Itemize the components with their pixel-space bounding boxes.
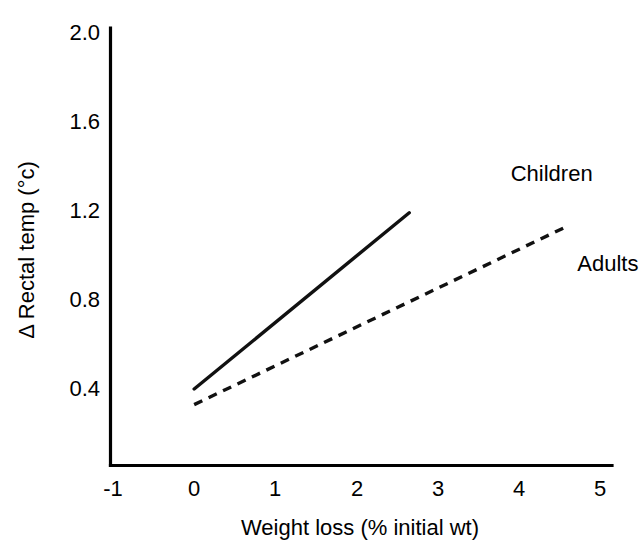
chart-figure: 2.0 1.6 1.2 0.8 0.4 -1 0 1 2 3 4 5 Weigh… (0, 0, 642, 552)
x-tick-label-5: 5 (594, 476, 606, 501)
series-line-children (194, 213, 409, 389)
x-tick-label-neg1: -1 (103, 476, 123, 501)
x-tick-label-1: 1 (269, 476, 281, 501)
x-tick-label-2: 2 (351, 476, 363, 501)
x-tick-label-3: 3 (432, 476, 444, 501)
y-axis-title: Δ Rectal temp (°c) (14, 161, 39, 339)
y-tick-label-2-0: 2.0 (69, 20, 100, 45)
series-label-adults: Adults (577, 251, 638, 276)
x-axis-title: Weight loss (% initial wt) (241, 515, 479, 540)
series-line-adults (194, 226, 567, 405)
x-tick-label-4: 4 (513, 476, 525, 501)
y-tick-label-0-8: 0.8 (69, 287, 100, 312)
y-tick-label-1-2: 1.2 (69, 198, 100, 223)
y-tick-label-0-4: 0.4 (69, 376, 100, 401)
y-tick-label-1-6: 1.6 (69, 109, 100, 134)
series-label-children: Children (511, 161, 593, 186)
chart-canvas: 2.0 1.6 1.2 0.8 0.4 -1 0 1 2 3 4 5 Weigh… (0, 0, 642, 552)
x-tick-label-0: 0 (188, 476, 200, 501)
